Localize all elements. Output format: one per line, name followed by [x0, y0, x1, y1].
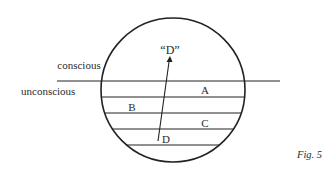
label-conscious: conscious: [57, 59, 100, 71]
label-layer-b: B: [128, 101, 135, 113]
label-layer-d: D: [162, 133, 170, 145]
figure-diagram: “D” conscious unconscious A B C D Fig. 5: [0, 0, 332, 173]
label-unconscious: unconscious: [21, 85, 75, 97]
label-layer-c: C: [201, 117, 208, 129]
psyche-circle: [101, 18, 245, 162]
figure-caption: Fig. 5: [296, 149, 322, 160]
label-emerged-d: “D”: [160, 43, 179, 57]
label-layer-a: A: [201, 84, 209, 96]
